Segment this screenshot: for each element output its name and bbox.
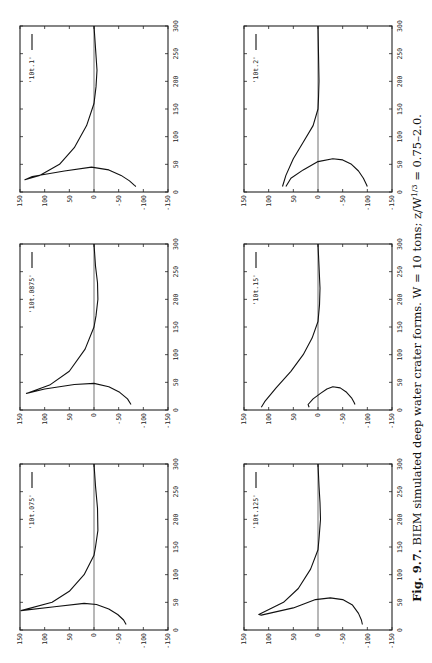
- y-tick-label: 100: [41, 195, 49, 207]
- x-tick-label: 50: [172, 160, 180, 168]
- x-tick-label: 150: [172, 541, 180, 553]
- y-tick-label: -100: [364, 413, 372, 429]
- x-tick-label: 200: [172, 293, 180, 305]
- y-tick-label: 50: [66, 195, 74, 203]
- y-tick-label: 0: [314, 633, 322, 637]
- x-tick-label: 100: [172, 349, 180, 361]
- x-tick-label: 100: [172, 569, 180, 581]
- crater-curve: [286, 159, 367, 187]
- y-tick-label: 0: [90, 633, 98, 637]
- x-tick-label: 50: [172, 598, 180, 606]
- plot-10t-2: 050100150200250300150100500-50-100-150'1…: [232, 14, 432, 224]
- crater-curve: [21, 464, 126, 625]
- x-tick-label: 0: [396, 408, 404, 412]
- y-tick-label: -50: [115, 195, 123, 207]
- crater-curve: [283, 26, 320, 187]
- crater-curve: [259, 464, 363, 625]
- x-tick-label: 150: [172, 103, 180, 115]
- x-tick-label: 300: [172, 458, 180, 470]
- y-tick-label: -50: [339, 633, 347, 645]
- crater-curve: [26, 244, 131, 405]
- plot-svg: 050100150200250300150100500-50-100-150'1…: [232, 14, 432, 224]
- plot-10t-125: 050100150200250300150100500-50-100-150'1…: [232, 452, 432, 662]
- x-tick-label: 50: [396, 378, 404, 386]
- x-tick-label: 150: [396, 321, 404, 333]
- plot-svg: 050100150200250300150100500-50-100-150'1…: [8, 232, 208, 442]
- legend-label: '10t.125': [252, 494, 260, 529]
- y-tick-label: -100: [140, 633, 148, 649]
- y-tick-label: 100: [265, 413, 273, 425]
- plot-svg: 050100150200250300150100500-50-100-150'1…: [232, 452, 432, 662]
- x-tick-label: 200: [396, 513, 404, 525]
- y-tick-label: -150: [388, 633, 396, 649]
- y-tick-label: -50: [339, 195, 347, 207]
- y-tick-label: 150: [240, 633, 248, 645]
- x-tick-label: 300: [172, 20, 180, 32]
- y-tick-label: 50: [290, 633, 298, 641]
- x-tick-label: 250: [396, 486, 404, 498]
- y-tick-label: -150: [164, 413, 172, 429]
- y-tick-label: -100: [140, 195, 148, 211]
- x-tick-label: 250: [172, 48, 180, 60]
- x-tick-label: 200: [396, 293, 404, 305]
- x-tick-label: 300: [396, 458, 404, 470]
- caption-params: W = 10 tons; z/W: [410, 197, 424, 298]
- y-tick-label: 100: [265, 633, 273, 645]
- y-tick-label: 150: [240, 413, 248, 425]
- x-tick-label: 150: [396, 541, 404, 553]
- plot-svg: 050100150200250300150100500-50-100-150'1…: [232, 232, 432, 442]
- caption-exponent: 1/3: [410, 184, 419, 197]
- y-tick-label: -50: [339, 413, 347, 425]
- plot-10t-15: 050100150200250300150100500-50-100-150'1…: [232, 232, 432, 442]
- x-tick-label: 300: [396, 238, 404, 250]
- legend-label: '10t.2': [252, 56, 260, 83]
- caption-tail: = 0.75–2.0.: [410, 114, 424, 184]
- y-tick-label: -150: [164, 633, 172, 649]
- crater-curve: [25, 26, 136, 187]
- x-tick-label: 100: [396, 131, 404, 143]
- caption-label: Fig. 9.7.: [410, 549, 424, 602]
- x-tick-label: 50: [396, 598, 404, 606]
- y-tick-label: -100: [140, 413, 148, 429]
- y-tick-label: 150: [16, 633, 24, 645]
- y-tick-label: 0: [314, 413, 322, 417]
- x-tick-label: 250: [396, 266, 404, 278]
- x-tick-label: 0: [396, 190, 404, 194]
- x-tick-label: 200: [172, 513, 180, 525]
- x-tick-label: 100: [396, 569, 404, 581]
- y-tick-label: -100: [364, 195, 372, 211]
- y-tick-label: 100: [265, 195, 273, 207]
- plot-10t-075: 050100150200250300150100500-50-100-150'1…: [8, 452, 208, 662]
- plot-10t-0875: 050100150200250300150100500-50-100-150'1…: [8, 232, 208, 442]
- y-tick-label: 50: [66, 633, 74, 641]
- legend-label: '10t.1': [28, 56, 36, 83]
- x-tick-label: 0: [172, 190, 180, 194]
- figure-caption: Fig. 9.7. BIEM simulated deep water crat…: [410, 88, 425, 628]
- y-tick-label: -50: [115, 413, 123, 425]
- plot-10t-1: 050100150200250300150100500-50-100-150'1…: [8, 14, 208, 224]
- y-tick-label: -150: [388, 195, 396, 211]
- x-tick-label: 150: [172, 321, 180, 333]
- y-tick-label: -150: [164, 195, 172, 211]
- x-tick-label: 250: [172, 266, 180, 278]
- x-tick-label: 200: [396, 75, 404, 87]
- y-tick-label: 0: [314, 195, 322, 199]
- x-tick-label: 200: [172, 75, 180, 87]
- caption-text: BIEM simulated deep water crater forms.: [410, 302, 424, 545]
- x-tick-label: 300: [172, 238, 180, 250]
- x-tick-label: 250: [396, 48, 404, 60]
- y-tick-label: -100: [364, 633, 372, 649]
- y-tick-label: 50: [290, 413, 298, 421]
- x-tick-label: 150: [396, 103, 404, 115]
- x-tick-label: 50: [396, 160, 404, 168]
- y-tick-label: -150: [388, 413, 396, 429]
- y-tick-label: 100: [41, 633, 49, 645]
- plot-svg: 050100150200250300150100500-50-100-150'1…: [8, 452, 208, 662]
- legend-label: '10t.075': [28, 494, 36, 529]
- y-tick-label: 150: [240, 195, 248, 207]
- x-tick-label: 0: [396, 628, 404, 632]
- x-tick-label: 50: [172, 378, 180, 386]
- y-tick-label: 0: [90, 413, 98, 417]
- x-tick-label: 0: [172, 628, 180, 632]
- legend-label: '10t.0875': [28, 274, 36, 313]
